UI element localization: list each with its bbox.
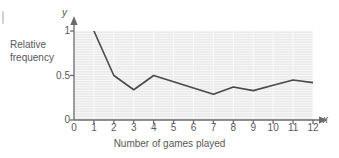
x-tick-label: 6 xyxy=(184,123,204,133)
chart-caption: Number of games played xyxy=(0,138,339,149)
x-tick-label: 5 xyxy=(164,123,184,133)
x-tick-label: 7 xyxy=(203,123,223,133)
x-tick-label: 10 xyxy=(263,123,283,133)
y-tick-label: 1 xyxy=(64,26,70,36)
y-tick-label: 0.5 xyxy=(56,71,70,81)
x-tick-label: 0 xyxy=(64,123,84,133)
x-tick-label: 2 xyxy=(104,123,124,133)
x-tick-label: 1 xyxy=(84,123,104,133)
x-tick-label: 9 xyxy=(243,123,263,133)
x-tick-label: 8 xyxy=(223,123,243,133)
x-tick-label: 12 xyxy=(303,123,323,133)
x-tick-label: 11 xyxy=(283,123,303,133)
relative-frequency-line-chart: Relative frequency y x xyxy=(0,0,339,158)
x-tick-label: 3 xyxy=(124,123,144,133)
x-tick-label: 4 xyxy=(144,123,164,133)
